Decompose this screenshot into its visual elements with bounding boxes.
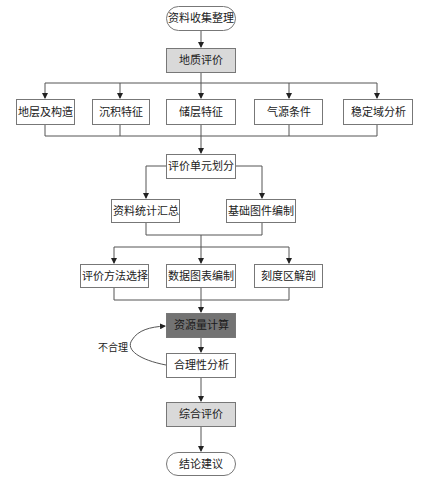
node-base-maps: 基础图件编制 bbox=[226, 199, 296, 223]
node-label: 结论建议 bbox=[179, 459, 223, 470]
node-geology-evaluation-label: 地质评价 bbox=[179, 55, 223, 66]
node-factor-gas-source: 气源条件 bbox=[254, 99, 323, 125]
node-unit-division: 评价单元划分 bbox=[166, 154, 236, 179]
node-label: 储层特征 bbox=[179, 107, 223, 118]
node-data-charts: 数据图表编制 bbox=[166, 264, 236, 288]
node-label: 评价方法选择 bbox=[82, 271, 148, 282]
node-rationality-analysis: 合理性分析 bbox=[166, 353, 236, 378]
node-label: 综合评价 bbox=[179, 409, 223, 420]
node-label: 稳定域分析 bbox=[351, 107, 406, 118]
node-label: 资料统计汇总 bbox=[113, 206, 179, 217]
node-label: 沉积特征 bbox=[99, 107, 143, 118]
node-factor-reservoir: 储层特征 bbox=[166, 99, 236, 125]
node-label: 数据图表编制 bbox=[168, 271, 234, 282]
node-label: 评价单元划分 bbox=[168, 161, 234, 172]
node-label: 地层及构造 bbox=[18, 107, 73, 118]
node-start: 资料收集整理 bbox=[166, 6, 236, 31]
node-factor-strata-structure: 地层及构造 bbox=[16, 99, 75, 125]
node-start-label: 资料收集整理 bbox=[168, 13, 234, 24]
node-label: 基础图件编制 bbox=[228, 206, 294, 217]
node-label: 气源条件 bbox=[267, 107, 311, 118]
node-geology-evaluation: 地质评价 bbox=[166, 48, 236, 73]
node-label: 刻度区解剖 bbox=[261, 271, 316, 282]
node-factor-sedimentary: 沉积特征 bbox=[92, 99, 150, 125]
node-resource-calculation: 资源量计算 bbox=[166, 313, 236, 338]
node-label: 合理性分析 bbox=[174, 360, 229, 371]
node-data-summary: 资料统计汇总 bbox=[111, 199, 180, 223]
node-overall-evaluation: 综合评价 bbox=[166, 402, 236, 427]
node-end: 结论建议 bbox=[166, 452, 236, 476]
node-factor-stability-zone: 稳定域分析 bbox=[343, 99, 413, 125]
node-calibration-area: 刻度区解剖 bbox=[254, 264, 323, 288]
loop-label-unreasonable: 不合理 bbox=[98, 339, 128, 354]
node-label: 资源量计算 bbox=[174, 320, 229, 331]
node-method-selection: 评价方法选择 bbox=[80, 264, 149, 288]
